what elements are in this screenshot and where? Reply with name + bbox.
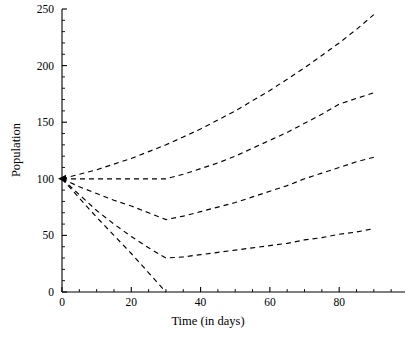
y-axis-title: Population (9, 122, 23, 177)
y-tick-label: 100 (37, 173, 55, 185)
x-tick-label: 80 (333, 296, 345, 308)
x-tick-label: 0 (59, 296, 65, 308)
y-tick-label: 0 (48, 286, 54, 298)
y-tick-label: 150 (37, 116, 55, 128)
population-chart-figure: 020406080050100150200250 Time (in days) … (0, 0, 416, 340)
x-tick-label: 40 (195, 296, 207, 308)
y-tick-label: 50 (43, 229, 55, 241)
series-line-curve-4 (62, 179, 374, 258)
series-lines (62, 15, 374, 292)
x-axis-title: Time (in days) (171, 314, 244, 328)
x-tick-label: 20 (126, 296, 138, 308)
y-tick-label: 200 (37, 60, 55, 72)
series-line-curve-5 (62, 179, 166, 292)
chart-plot-area: 020406080050100150200250 Time (in days) … (0, 0, 416, 340)
axes (62, 9, 405, 292)
series-line-curve-1 (62, 15, 374, 179)
series-line-curve-3 (62, 157, 374, 219)
tick-labels: 020406080050100150200250 (37, 3, 345, 308)
y-tick-label: 250 (37, 3, 55, 15)
x-tick-label: 60 (264, 296, 276, 308)
